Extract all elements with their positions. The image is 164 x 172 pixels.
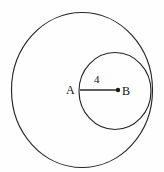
label-segment-length: 4 — [94, 74, 100, 85]
small-circle — [79, 53, 151, 130]
point-b-dot — [116, 88, 120, 92]
label-point-b: B — [122, 85, 130, 97]
geometry-figure: A B 4 — [0, 0, 164, 172]
figure-canvas — [0, 0, 164, 172]
label-point-a: A — [66, 84, 75, 96]
